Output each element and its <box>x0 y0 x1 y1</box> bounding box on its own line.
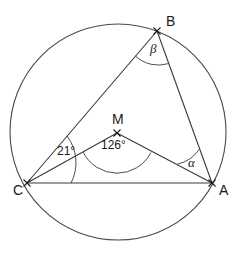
angle-label-at-A: α <box>188 156 195 169</box>
segment-CB <box>27 31 157 183</box>
angle-label-at-C: 21° <box>57 145 75 157</box>
segment-BA <box>157 31 212 183</box>
point-label-C: C <box>13 183 23 197</box>
geometry-canvas <box>0 0 244 255</box>
point-marker-M <box>114 130 121 137</box>
point-label-B: B <box>166 14 175 28</box>
angle-arc-at-B <box>136 56 169 65</box>
angle-label-at-M: 126° <box>101 139 126 151</box>
segment-MA <box>117 133 212 183</box>
angle-label-at-B: β <box>150 42 156 55</box>
geometry-figure: A B C M 21° 126° α β <box>0 0 244 255</box>
angle-arc-at-M <box>83 152 151 173</box>
point-label-M: M <box>112 112 124 126</box>
point-label-A: A <box>219 183 228 197</box>
point-marker-B <box>154 28 161 35</box>
